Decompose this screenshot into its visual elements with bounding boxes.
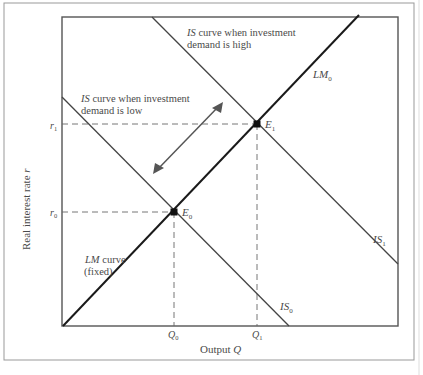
is-low-annotation-line1: IS curve when investment	[80, 93, 190, 104]
q0-label: Q0	[168, 329, 178, 341]
q1-label: Q1	[252, 329, 262, 341]
r1-label: r1	[50, 120, 57, 132]
is-high-annotation-line1: IS curve when investment	[186, 27, 296, 38]
e0-point	[171, 209, 178, 216]
y-axis-label: Real interest rate r	[20, 168, 32, 250]
lm-fixed-annotation-line1: LM curve	[84, 254, 126, 265]
is-high-annotation-line2: demand is high	[187, 39, 252, 50]
shift-arrow-icon	[153, 102, 223, 174]
r0-label: r0	[50, 207, 57, 219]
is-lm-diagram: E1 E0 r1 r0 Q0 Q1 LM0 IS1 IS0 IS curve w…	[0, 0, 423, 375]
lm-curve	[63, 15, 359, 326]
plot-frame	[62, 17, 398, 326]
is1-curve	[152, 17, 398, 264]
e1-point	[254, 121, 261, 128]
x-axis-label: Output Q	[200, 343, 241, 355]
lm0-label: LM0	[312, 68, 332, 83]
is0-label: IS0	[279, 300, 293, 315]
lm-fixed-annotation-line2: (fixed)	[84, 266, 113, 278]
outer-border	[4, 3, 414, 360]
is-low-annotation-line2: demand is low	[81, 105, 143, 116]
